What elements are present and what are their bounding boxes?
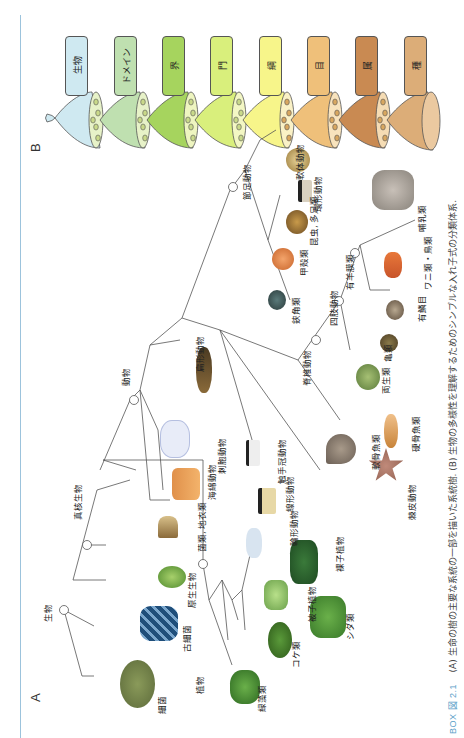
- mammal-image: [372, 170, 414, 210]
- node-label-eukaryotes: 真核生物: [74, 484, 83, 520]
- fungi-image: [158, 516, 178, 538]
- bacteria-image: [120, 660, 155, 708]
- taxon-label-nematodes: 線形動物: [286, 476, 295, 512]
- taxon-label-gymnosperms: 裸子植物: [336, 536, 345, 572]
- taxon-label-turtles: 亀類: [384, 344, 393, 362]
- rotifer-image: [246, 528, 262, 558]
- taxon-label-crustaceans: 甲殻類: [300, 249, 309, 276]
- taxon-label-cnidarians: 刺胞動物: [218, 438, 227, 474]
- lophophorate-image: [246, 440, 260, 466]
- phylogenetic-tree-lines: [0, 0, 464, 738]
- taxon-label-archaea: 古細菌: [183, 625, 192, 652]
- taxon-label-amphibians: 両生類: [382, 367, 391, 394]
- taxon-label-cartilaginous-fish: 軟骨魚類: [372, 434, 381, 470]
- figure-number: BOX 図 2.1: [448, 684, 458, 734]
- taxon-label-sponges: 海綿動物: [208, 464, 217, 500]
- taxon-label-rotifers: 輪形動物: [290, 510, 299, 546]
- taxon-label-molluscs: 軟体動物: [296, 144, 305, 180]
- bony-fish-image: [384, 414, 398, 448]
- node-label-arthropods: 節足動物: [243, 164, 252, 200]
- taxon-label-crocs-birds: ワニ類・鳥類: [424, 236, 433, 290]
- taxon-label-green-algae: 緑藻類: [258, 685, 267, 712]
- angiosperm-image: [264, 580, 288, 610]
- taxon-label-squamates: 有鱗目: [418, 295, 427, 322]
- amphibian-image: [356, 364, 380, 390]
- taxon-label-echinoderms: 棘皮動物: [408, 484, 417, 520]
- taxon-label-mosses: コケ類: [292, 641, 301, 668]
- taxon-label-bony-fish: 硬骨魚類: [412, 416, 421, 452]
- taxon-label-flatworms: 扁形動物: [196, 336, 205, 372]
- cartilaginous-fish-image: [326, 434, 356, 464]
- archaea-image: [140, 606, 178, 641]
- taxon-label-annelids: 環形動物: [314, 176, 323, 212]
- taxon-label-fungi: 菌類, 地衣類: [198, 502, 207, 552]
- node-label-amniotes: 有羊膜類: [346, 254, 355, 290]
- sponge-image: [172, 468, 200, 500]
- textbook-figure-page: B: [0, 0, 464, 738]
- protist-image: [158, 566, 186, 588]
- taxon-label-ferns: シダ類: [346, 613, 355, 640]
- taxon-label-chelicerates: 鋏角類: [292, 297, 301, 324]
- nematode-image: [258, 488, 276, 514]
- node-label-plants: 植物: [196, 676, 205, 694]
- node-label-animals: 動物: [122, 368, 131, 386]
- gymnosperm-image: [290, 540, 318, 584]
- taxon-label-angiosperms: 被子植物: [308, 586, 317, 622]
- node-label-life: 生物: [44, 604, 53, 622]
- cnidarian-image: [160, 420, 190, 458]
- taxon-label-protists: 原生生物: [188, 572, 197, 608]
- node-label-vertebrates: 脊椎動物: [303, 350, 312, 386]
- taxon-label-mammals: 哺乳類: [418, 205, 427, 232]
- crustacean-image: [272, 248, 294, 270]
- bird-image: [384, 252, 402, 278]
- node-label-tetrapods: 四肢動物: [330, 290, 339, 326]
- figure-caption: BOX 図 2.1 (A) 生命の樹の主要な系統の一部を描いた系統樹. (B) …: [446, 200, 459, 734]
- chelicerate-image: [268, 290, 286, 310]
- green-algae-image: [230, 670, 260, 704]
- moss-image: [268, 622, 292, 658]
- figure-caption-text: (A) 生命の樹の主要な系統の一部を描いた系統樹. (B) 生物の多様性を理解す…: [448, 200, 458, 673]
- insect-image: [286, 210, 308, 234]
- squamate-image: [386, 300, 404, 320]
- taxon-label-bacteria: 細菌: [158, 696, 167, 714]
